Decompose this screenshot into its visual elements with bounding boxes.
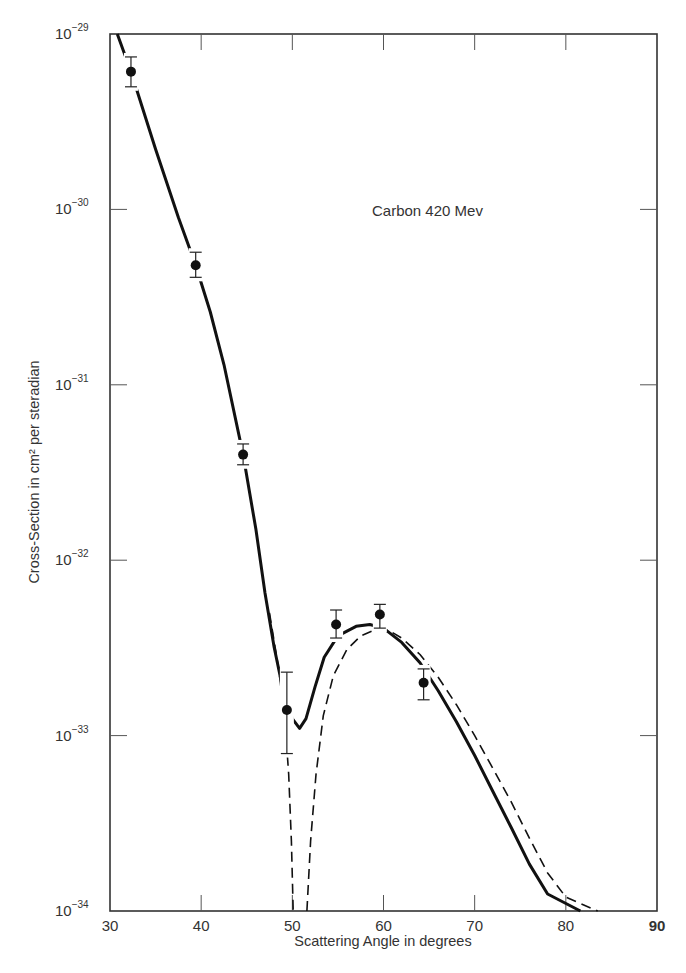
x-axis-ticks bbox=[201, 34, 566, 911]
y-tick-label: 10−32 bbox=[55, 548, 89, 568]
chart-annotation: Carbon 420 Mev bbox=[372, 202, 483, 219]
y-axis-ticks bbox=[110, 209, 657, 735]
x-tick-label: 70 bbox=[466, 917, 483, 934]
dashed-theory-curve bbox=[270, 613, 598, 911]
x-tick-label: 50 bbox=[284, 917, 301, 934]
cross-section-chart: 30405060708090 10−2910−3010−3110−3210−33… bbox=[0, 0, 686, 973]
data-marker bbox=[191, 260, 201, 270]
x-axis-title: Scattering Angle in degrees bbox=[294, 933, 471, 949]
data-point bbox=[124, 53, 138, 91]
x-tick-label: 60 bbox=[375, 917, 392, 934]
x-tick-label: 40 bbox=[193, 917, 210, 934]
x-tick-label: 90 bbox=[649, 917, 666, 934]
data-marker bbox=[282, 705, 292, 715]
y-tick-label: 10−33 bbox=[55, 724, 89, 744]
x-axis-tick-labels: 30405060708090 bbox=[102, 917, 666, 934]
theory-curves bbox=[117, 34, 597, 911]
data-marker bbox=[419, 678, 429, 688]
data-point bbox=[280, 668, 294, 757]
data-point bbox=[236, 440, 250, 469]
solid-theory-curve bbox=[117, 34, 580, 911]
data-marker bbox=[331, 619, 341, 629]
y-tick-label: 10−31 bbox=[55, 373, 89, 393]
x-tick-label: 80 bbox=[557, 917, 574, 934]
data-marker bbox=[238, 450, 248, 460]
data-point bbox=[373, 600, 387, 632]
y-tick-label: 10−29 bbox=[55, 22, 89, 42]
y-axis-tick-labels: 10−2910−3010−3110−3210−3310−34 bbox=[55, 22, 89, 919]
data-point bbox=[417, 665, 431, 704]
x-tick-label: 30 bbox=[102, 917, 119, 934]
y-tick-label: 10−34 bbox=[55, 899, 89, 919]
y-tick-label: 10−30 bbox=[55, 197, 89, 217]
data-point bbox=[329, 606, 343, 642]
y-axis-title: Cross-Section in cm² per steradian bbox=[26, 360, 42, 583]
data-marker bbox=[375, 610, 385, 620]
data-points bbox=[124, 53, 431, 758]
data-point bbox=[189, 248, 203, 281]
plot-frame bbox=[110, 34, 657, 911]
data-marker bbox=[126, 67, 136, 77]
